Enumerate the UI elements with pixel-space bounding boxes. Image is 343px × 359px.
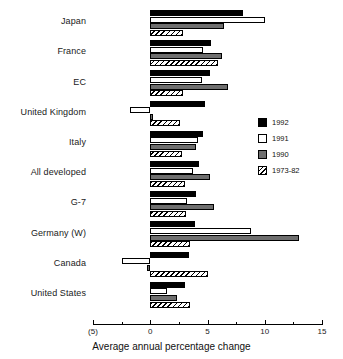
x-axis-tick <box>265 320 266 325</box>
bar-1991-germany-w- <box>150 228 251 234</box>
bar-1991-united-states <box>150 288 167 294</box>
category-label: Canada <box>0 258 86 268</box>
bar-1973-82-germany-w- <box>150 241 190 247</box>
bar-1991-ec <box>150 77 202 83</box>
bar-1990-ec <box>150 84 228 90</box>
bar-1990-italy <box>150 144 196 150</box>
bar-1973-82-japan <box>150 30 183 36</box>
x-axis-tick-label: (5) <box>73 327 113 336</box>
bar-1992-france <box>150 40 211 46</box>
x-axis-tick-label: 10 <box>245 327 285 336</box>
bar-1973-82-united-kingdom <box>150 120 180 126</box>
x-axis-tick <box>150 320 151 325</box>
legend-label: 1991 <box>272 134 289 143</box>
chart-legend: 1992199119901973-82 <box>258 116 338 180</box>
x-axis-minor-tick <box>293 322 294 325</box>
x-axis-minor-tick <box>179 322 180 325</box>
bar-1990-canada <box>147 265 150 271</box>
bar-1990-united-kingdom <box>150 114 152 120</box>
category-label: G-7 <box>0 197 86 207</box>
bar-1973-82-france <box>150 60 218 66</box>
bar-1992-ec <box>150 70 210 76</box>
category-label: United Kingdom <box>0 107 86 117</box>
legend-item: 1973-82 <box>258 164 338 177</box>
x-axis-tick <box>208 320 209 325</box>
legend-label: 1973-82 <box>272 166 300 175</box>
bar-1992-italy <box>150 131 203 137</box>
bar-1990-all-developed <box>150 174 210 180</box>
bar-1973-82-all-developed <box>150 181 184 187</box>
bar-1992-germany-w- <box>150 221 195 227</box>
x-axis-minor-tick <box>236 322 237 325</box>
x-axis-tick <box>322 320 323 325</box>
bar-1973-82-italy <box>150 151 182 157</box>
category-label: France <box>0 46 86 56</box>
bar-1992-g-7 <box>150 191 196 197</box>
bar-1991-all-developed <box>150 168 192 174</box>
x-axis-tick-label: 5 <box>188 327 228 336</box>
legend-swatch-icon <box>258 166 267 175</box>
bar-1973-82-ec <box>150 90 183 96</box>
bar-1990-united-states <box>150 295 176 301</box>
legend-item: 1992 <box>258 116 338 129</box>
category-label: Germany (W) <box>0 228 86 238</box>
legend-item: 1991 <box>258 132 338 145</box>
legend-swatch-icon <box>258 150 267 159</box>
legend-swatch-icon <box>258 118 267 127</box>
bar-1990-france <box>150 53 222 59</box>
bar-1990-g-7 <box>150 204 214 210</box>
category-label: United States <box>0 288 86 298</box>
x-axis-title: Average annual percentage change <box>0 341 343 353</box>
legend-swatch-icon <box>258 134 267 143</box>
category-label: Japan <box>0 16 86 26</box>
bar-1991-united-kingdom <box>130 107 151 113</box>
horizontal-bar-chart: JapanFranceECUnited KingdomItalyAll deve… <box>0 0 343 359</box>
x-axis-minor-tick <box>122 322 123 325</box>
bar-1992-all-developed <box>150 161 199 167</box>
legend-label: 1992 <box>272 118 289 127</box>
bar-1991-italy <box>150 137 198 143</box>
bar-1973-82-united-states <box>150 302 190 308</box>
bar-1992-canada <box>150 252 189 258</box>
bar-1990-japan <box>150 23 223 29</box>
bar-1990-germany-w- <box>150 235 299 241</box>
bar-1991-france <box>150 47 203 53</box>
bar-1973-82-g-7 <box>150 211 185 217</box>
bar-1992-japan <box>150 10 243 16</box>
bar-1992-united-states <box>150 282 184 288</box>
x-axis-tick-label: 0 <box>130 327 170 336</box>
category-label: Italy <box>0 137 86 147</box>
bar-1992-united-kingdom <box>150 101 205 107</box>
bar-1991-g-7 <box>150 198 187 204</box>
legend-item: 1990 <box>258 148 338 161</box>
bar-1973-82-canada <box>150 271 207 277</box>
x-axis-tick <box>93 320 94 325</box>
category-label: All developed <box>0 167 86 177</box>
x-axis-tick-label: 15 <box>302 327 342 336</box>
bar-1991-japan <box>150 17 265 23</box>
category-label: EC <box>0 77 86 87</box>
legend-label: 1990 <box>272 150 289 159</box>
bar-1991-canada <box>122 258 151 264</box>
